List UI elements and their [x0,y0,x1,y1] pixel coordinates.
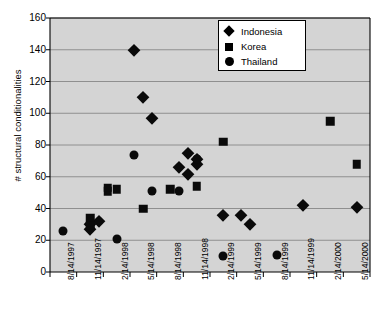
x-axis-tick-label: 5/14/2000 [361,242,370,280]
legend-item-indonesia: Indonesia [223,24,299,39]
data-point-thailand [59,226,68,235]
legend-label: Indonesia [241,26,282,37]
data-point-korea [166,185,175,194]
y-axis-title: # structural conditionalities [12,31,23,221]
x-axis-tick-label: 8/14/1997 [67,242,76,280]
data-point-korea [352,160,361,169]
y-axis-tick-label: 20 [16,235,46,245]
y-axis-tick-label: 160 [16,13,46,23]
data-point-thailand [219,252,228,261]
data-point-thailand [174,187,183,196]
x-axis-tick-label: 2/14/1999 [227,242,236,280]
x-axis-tick-label: 11/14/1997 [94,238,103,280]
data-point-thailand [272,250,281,259]
circle-marker-icon [223,55,236,68]
x-axis-tick-label: 8/14/1999 [281,242,290,280]
legend-item-thailand: Thailand [223,54,299,69]
data-point-thailand [192,155,201,164]
data-point-korea [192,182,201,191]
legend-label: Thailand [241,56,277,67]
data-point-korea [326,117,335,126]
x-axis-tick-label: 5/14/1999 [254,242,263,280]
x-axis-tick-label: 8/14/1998 [174,242,183,280]
data-point-korea [86,222,95,231]
data-point-korea [139,204,148,213]
plot-gridlines [0,0,382,336]
legend-label: Korea [241,41,266,52]
data-point-korea [112,185,121,194]
x-axis-tick-label: 11/14/1998 [201,238,210,280]
data-point-korea [104,184,113,193]
data-point-thailand [130,150,139,159]
scatter-chart: 020406080100120140160 # structural condi… [0,0,382,336]
x-axis-tick-label: 5/14/1998 [147,242,156,280]
x-axis-tick-label: 2/14/2000 [334,242,343,280]
square-marker-icon [223,40,236,53]
legend-item-korea: Korea [223,39,299,54]
data-point-korea [219,138,228,147]
data-point-thailand [112,234,121,243]
x-axis-tick-label: 2/14/1998 [121,242,130,280]
x-axis-tick-label: 11/14/1999 [307,238,316,280]
chart-legend: Indonesia Korea Thailand [218,20,306,71]
diamond-marker-icon [223,25,236,38]
y-axis-tick-label: 0 [16,267,46,277]
data-point-thailand [148,187,157,196]
